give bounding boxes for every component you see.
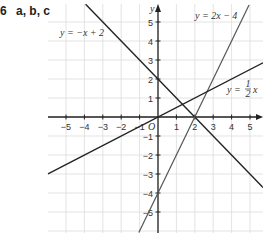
x-tick-label: 2 [192,122,197,132]
y-tick-label: 5 [148,18,153,28]
y-tick-label: 4 [148,37,153,47]
x-tick-label: −4 [79,122,89,132]
x-axis-arrow-icon [256,114,263,120]
origin-label: O [148,121,155,132]
coordinate-plot: y−5−4−3−2−11234554321−1−2−3−4−5Oy = −x +… [0,0,263,233]
y-tick-label: −4 [143,189,153,199]
y-tick-label: −5 [143,208,153,218]
label-line-c-denominator: 2 [246,88,251,99]
y-tick-label: 1 [148,94,153,104]
x-tick-label: 5 [247,122,252,132]
y-tick-label: −3 [143,170,153,180]
x-tick-label: 3 [211,122,216,132]
x-tick-label: 4 [229,122,234,132]
y-tick-label: 3 [148,56,153,66]
x-tick-label: −2 [116,122,126,132]
y-tick-label: −1 [143,132,153,142]
y-axis-arrow-icon [155,4,161,12]
label-line-c-rhs: x [252,84,258,95]
y-tick-label: −2 [143,151,153,161]
x-tick-label: 1 [174,122,179,132]
x-tick-label: −3 [98,122,108,132]
x-tick-label: −5 [61,122,71,132]
label-line-b: y = 2x − 4 [194,10,237,21]
label-line-a: y = −x + 2 [59,27,104,38]
y-axis-label: y [149,3,155,14]
label-line-c-lhs: y = [226,84,241,95]
y-tick-label: 2 [148,75,153,85]
